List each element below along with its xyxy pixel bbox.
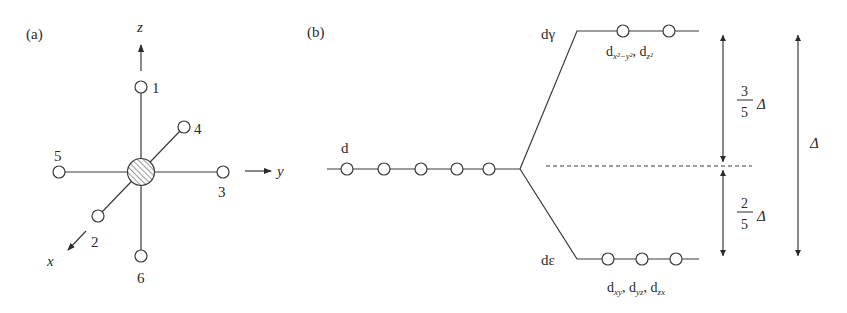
dgamma-orbitals-label: dx²−y², dz² xyxy=(606,44,653,61)
ligand-4 xyxy=(178,121,190,133)
ligand-6 xyxy=(135,250,147,262)
z-axis-label: z xyxy=(136,19,143,35)
lower-delta-symbol: Δ xyxy=(756,208,766,224)
d-orbital xyxy=(415,163,427,175)
dgamma-label: dγ xyxy=(541,26,556,42)
ligand-5 xyxy=(53,166,65,178)
metal-center xyxy=(128,159,155,186)
upper-fraction-denominator: 5 xyxy=(741,105,748,120)
ligand-4-label: 4 xyxy=(194,121,202,137)
lower-fraction-denominator: 5 xyxy=(741,217,748,232)
d-orbital xyxy=(483,163,495,175)
ligand-1-label: 1 xyxy=(152,80,160,96)
panel-a: (a) 1 2 3 4 5 6 z y x xyxy=(26,19,284,286)
dgamma-orbital xyxy=(617,25,629,37)
ligand-1 xyxy=(135,81,147,93)
lower-branch xyxy=(520,169,699,259)
panel-b-label: (b) xyxy=(307,24,325,41)
d-orbital xyxy=(451,163,463,175)
y-axis-label: y xyxy=(275,163,284,179)
depsilon-orbital xyxy=(670,253,682,265)
ligand-6-label: 6 xyxy=(137,270,145,286)
ligand-3-label: 3 xyxy=(218,184,226,200)
total-delta-symbol: Δ xyxy=(809,135,819,151)
crystal-field-diagram: (a) 1 2 3 4 5 6 z y x (b) xyxy=(0,0,847,313)
d-orbital xyxy=(341,163,353,175)
ligand-2-label: 2 xyxy=(91,234,99,250)
lower-fraction-numerator: 2 xyxy=(741,196,748,211)
x-axis-label: x xyxy=(46,253,54,269)
depsilon-orbital xyxy=(602,253,614,265)
depsilon-orbitals-label: dxy, dyz, dzx xyxy=(607,280,665,297)
dgamma-orbital xyxy=(663,25,675,37)
ligand-3 xyxy=(217,166,229,178)
panel-b: (b) d dγ dx²−y², dz² dε dxy, dyz, dzx 3 … xyxy=(307,24,819,297)
depsilon-orbital xyxy=(636,253,648,265)
panel-a-label: (a) xyxy=(26,26,43,43)
depsilon-label: dε xyxy=(541,252,555,268)
d-level-label: d xyxy=(341,140,349,156)
x-axis-arrow xyxy=(68,231,86,250)
upper-delta-symbol: Δ xyxy=(756,96,766,112)
ligand-2 xyxy=(92,210,104,222)
upper-fraction-numerator: 3 xyxy=(741,84,748,99)
d-orbital xyxy=(378,163,390,175)
ligand-5-label: 5 xyxy=(54,148,62,164)
